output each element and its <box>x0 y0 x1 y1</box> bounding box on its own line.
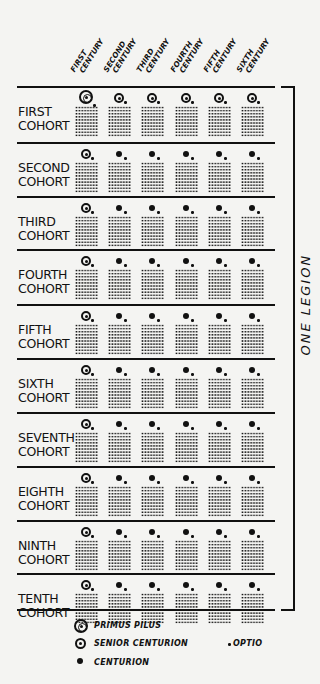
century-block <box>108 469 132 523</box>
soldiers-grid <box>175 162 198 193</box>
senior-centurion-icon <box>75 638 86 649</box>
century-label: SIXTHCENTURY <box>235 33 271 78</box>
century-label: FIRSTCENTURY <box>69 33 105 78</box>
senior-centurion-icon <box>81 365 91 375</box>
optio-icon <box>91 373 94 376</box>
century-label: THIRDCENTURY <box>135 33 171 78</box>
optio-icon <box>257 427 260 430</box>
century-block <box>175 576 199 630</box>
century-block <box>75 469 99 523</box>
optio-icon <box>191 481 194 484</box>
soldiers-grid <box>241 269 264 300</box>
soldiers-grid <box>175 593 198 624</box>
optio-icon <box>157 535 160 538</box>
century-label: SECONDCENTURY <box>102 33 138 78</box>
cohort-label-line1: TENTH <box>18 592 69 606</box>
optio-icon <box>124 535 127 538</box>
century-block <box>108 361 132 415</box>
centurion-icon <box>214 149 222 157</box>
century-block <box>141 252 165 306</box>
optio-icon <box>157 211 160 214</box>
century-block <box>75 415 99 469</box>
century-block <box>75 145 99 199</box>
soldiers-grid <box>108 432 131 463</box>
century-block <box>108 199 132 253</box>
centurion-icon <box>214 419 222 427</box>
optio-icon <box>191 211 194 214</box>
centurion-icon <box>247 473 255 481</box>
cohort-row: FOURTHCOHORT <box>0 252 290 306</box>
optio-icon <box>257 319 260 322</box>
soldiers-grid <box>75 269 98 300</box>
optio-icon <box>157 427 160 430</box>
optio-icon <box>157 588 160 591</box>
optio-icon <box>157 481 160 484</box>
cohort-row: NINTHCOHORT <box>0 523 290 577</box>
optio-icon <box>224 588 227 591</box>
cohort-label: TENTHCOHORT <box>18 592 69 620</box>
century-block <box>141 415 165 469</box>
optio-icon <box>224 211 227 214</box>
optio-icon <box>124 319 127 322</box>
centurion-icon <box>147 419 155 427</box>
soldiers-grid <box>241 162 264 193</box>
cohort-label: THIRDCOHORT <box>18 215 69 243</box>
century-block <box>141 523 165 577</box>
senior-centurion-icon <box>81 311 91 321</box>
soldiers-grid <box>108 216 131 247</box>
optio-icon <box>91 588 94 591</box>
century-block <box>108 145 132 199</box>
cohort-row: THIRDCOHORT <box>0 199 290 253</box>
cohort-label-line2: COHORT <box>18 499 69 513</box>
century-block <box>75 523 99 577</box>
soldiers-grid <box>141 432 164 463</box>
soldiers-grid <box>241 540 264 571</box>
optio-icon <box>224 101 227 104</box>
soldiers-grid <box>141 324 164 355</box>
century-block <box>208 252 232 306</box>
centurion-icon <box>114 580 122 588</box>
soldiers-grid <box>241 486 264 517</box>
soldiers-grid <box>208 324 231 355</box>
cohort-label-line1: NINTH <box>18 539 69 553</box>
cohort-row: FIRSTCOHORT <box>0 89 290 143</box>
optio-icon <box>157 373 160 376</box>
soldiers-grid <box>241 593 264 624</box>
soldiers-grid <box>175 106 198 137</box>
centurion-icon <box>147 311 155 319</box>
cohort-label-line2: COHORT <box>18 606 69 620</box>
cohort-row: SEVENTHCOHORT <box>0 415 290 469</box>
soldiers-grid <box>75 378 98 409</box>
optio-icon <box>124 373 127 376</box>
cohort-row: SIXTHCOHORT <box>0 361 290 415</box>
soldiers-grid <box>108 540 131 571</box>
cohort-label: SEVENTHCOHORT <box>18 431 75 459</box>
optio-icon <box>124 588 127 591</box>
optio-icon <box>157 157 160 160</box>
senior-centurion-icon <box>81 149 91 159</box>
centurion-icon <box>77 658 83 664</box>
optio-icon <box>124 481 127 484</box>
optio-icon <box>157 319 160 322</box>
centurion-icon <box>114 527 122 535</box>
centurion-icon <box>247 256 255 264</box>
senior-centurion-icon <box>114 93 124 103</box>
century-block <box>175 89 199 143</box>
centurion-icon <box>147 365 155 373</box>
centurion-icon <box>114 365 122 373</box>
centurion-icon <box>214 311 222 319</box>
century-block <box>141 145 165 199</box>
century-block <box>241 89 265 143</box>
centurion-icon <box>147 203 155 211</box>
optio-icon <box>224 264 227 267</box>
centurion-icon <box>114 419 122 427</box>
centurion-icon <box>247 203 255 211</box>
cohort-label-line2: COHORT <box>18 553 69 567</box>
soldiers-grid <box>108 378 131 409</box>
century-block <box>241 576 265 630</box>
optio-icon <box>124 157 127 160</box>
cohort-label-line1: SECOND <box>18 161 70 175</box>
soldiers-grid <box>108 269 131 300</box>
optio-icon <box>224 535 227 538</box>
centurion-icon <box>247 419 255 427</box>
